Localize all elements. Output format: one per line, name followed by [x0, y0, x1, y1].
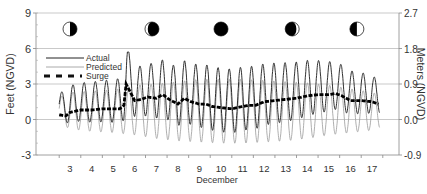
y-axis-label-feet: Feet (NGVD): [4, 53, 16, 114]
legend: Actual Predicted Surge: [44, 53, 122, 81]
full-moon-icon: [214, 22, 228, 36]
predicted-series-line: [59, 79, 379, 143]
tide-surge-chart: -30369-0.90.00.91.82.7345678910111213141…: [0, 0, 427, 194]
x-tick-label: 12: [259, 163, 270, 174]
x-tick-label: 14: [302, 163, 313, 174]
y-tick-label-feet: 3: [25, 78, 31, 90]
x-tick-label: 5: [110, 163, 115, 174]
y-tick-label-feet: -3: [21, 149, 31, 161]
x-tick-label: 15: [324, 163, 335, 174]
x-tick-label: 9: [197, 163, 202, 174]
y-tick-label-feet: 6: [25, 43, 31, 55]
x-tick-label: 6: [132, 163, 137, 174]
x-tick-label: 17: [367, 163, 378, 174]
x-tick-label: 3: [67, 163, 72, 174]
x-tick-label: 10: [216, 163, 227, 174]
x-tick-label: 13: [280, 163, 291, 174]
x-tick-label: 7: [154, 163, 159, 174]
first-quarter-moon-icon: [63, 22, 77, 36]
y-tick-label-meters: -0.9: [404, 150, 422, 161]
y-axis-label-meters: Meters (NGVD): [415, 48, 427, 120]
legend-surge-label: Surge: [86, 71, 109, 81]
waxing-gibbous-moon-icon: [145, 22, 159, 36]
last-quarter-moon-icon: [350, 22, 364, 36]
x-tick-label: 16: [345, 163, 356, 174]
y-tick-label-feet: 9: [25, 7, 31, 19]
moon-phase-row: [63, 22, 364, 36]
x-axis-label: December: [196, 175, 238, 185]
x-tick-label: 8: [175, 163, 180, 174]
y-tick-label-feet: 0: [25, 114, 31, 126]
x-tick-label: 11: [238, 163, 248, 174]
y-tick-label-meters: 2.7: [404, 8, 418, 19]
waning-gibbous-moon-icon: [285, 22, 299, 36]
x-tick-label: 4: [89, 163, 94, 174]
